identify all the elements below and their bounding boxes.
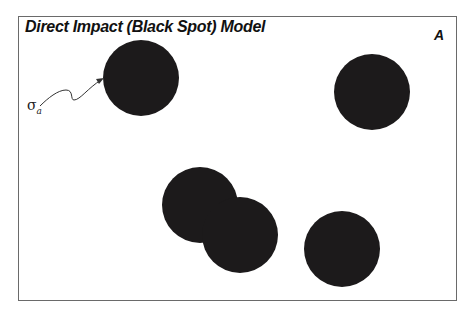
black-spots [103, 40, 410, 287]
spots-canvas [0, 0, 474, 317]
black-spot-2 [334, 54, 410, 130]
arrow-squiggle-icon [40, 80, 101, 106]
black-spot-1 [103, 40, 179, 116]
sigma-a-label: σa [27, 97, 42, 116]
black-spot-5 [304, 211, 380, 287]
black-spot-4 [202, 197, 278, 273]
